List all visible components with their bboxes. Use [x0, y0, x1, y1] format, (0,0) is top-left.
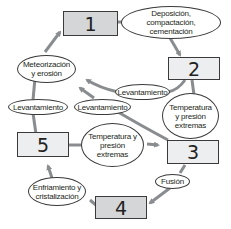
process-levantamiento-2-label: Levantamiento — [118, 88, 168, 97]
process-temperatura-5-3-label: Temperatura y presión extremas — [88, 132, 138, 159]
process-meteorizacion-label: Meteorización y erosión — [21, 60, 73, 78]
process-temperatura-2-3: Temperatura y presión extremas — [162, 93, 219, 139]
process-temperatura-5-3: Temperatura y presión extremas — [81, 123, 144, 167]
process-enfriamiento-label: Enfriamiento y cristalización — [31, 183, 83, 201]
stage-5-label: 5 — [37, 134, 49, 156]
stage-3-label: 3 — [187, 141, 199, 163]
stage-3-box: 3 — [167, 140, 219, 164]
stage-2-label: 2 — [188, 58, 200, 80]
process-deposicion-label: Deposición, compactación, cementación — [128, 9, 214, 36]
stage-1-box: 1 — [63, 11, 118, 36]
stage-1-label: 1 — [84, 13, 96, 35]
stage-5-box: 5 — [17, 132, 69, 157]
process-deposicion: Deposición, compactación, cementación — [121, 6, 221, 39]
process-levantamiento-left: Levantamiento — [8, 99, 68, 115]
process-levantamiento-mid: Levantamiento — [74, 99, 131, 115]
process-fusion-label: Fusión — [161, 177, 184, 186]
process-enfriamiento: Enfriamiento y cristalización — [28, 177, 86, 206]
process-meteorizacion: Meteorización y erosión — [17, 55, 76, 83]
process-levantamiento-left-label: Levantamiento — [13, 103, 63, 112]
rock-cycle-diagram: 1 2 3 4 5 Deposición, compactación, ceme… — [0, 0, 231, 229]
stage-4-label: 4 — [115, 197, 127, 219]
process-levantamiento-2: Levantamiento — [115, 84, 170, 100]
process-temperatura-2-3-label: Temperatura y presión extremas — [167, 103, 215, 130]
stage-2-box: 2 — [168, 57, 220, 80]
process-levantamiento-mid-label: Levantamiento — [78, 103, 128, 112]
stage-4-box: 4 — [95, 196, 147, 219]
process-fusion: Fusión — [155, 174, 190, 189]
